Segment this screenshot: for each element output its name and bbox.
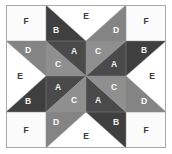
quilt-piece-f [126,5,166,41]
quilt-piece-f [6,5,46,41]
quilt-block-canvas: FFFFBEDDEBDEBBEDCACAACAC [0,0,172,154]
quilt-piece-f [126,112,166,148]
quilt-block-diagram: FFFFBEDDEBDEBBEDCACAACAC [0,0,172,154]
quilt-piece-f [6,112,46,148]
